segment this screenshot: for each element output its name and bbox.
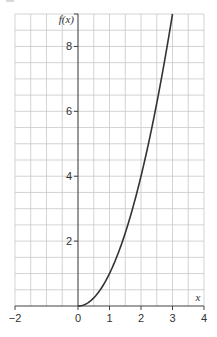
x-tick-label: 4 — [201, 312, 207, 324]
x-ticks: −201234 — [9, 306, 207, 324]
y-tick-label: 6 — [66, 105, 72, 117]
y-tick-label: 4 — [66, 170, 72, 182]
x-tick-label: 1 — [106, 312, 112, 324]
function-chart: −201234 2468 x f(x) — [0, 0, 217, 337]
y-tick-label: 8 — [66, 40, 72, 52]
x-tick-label: 3 — [169, 312, 175, 324]
x-tick-label: −2 — [9, 312, 22, 324]
y-tick-label: 2 — [66, 235, 72, 247]
grid — [15, 14, 204, 306]
x-tick-label: 0 — [75, 312, 81, 324]
x-tick-label: 2 — [138, 312, 144, 324]
y-axis-label: f(x) — [59, 13, 75, 26]
x-axis-label: x — [195, 291, 201, 303]
